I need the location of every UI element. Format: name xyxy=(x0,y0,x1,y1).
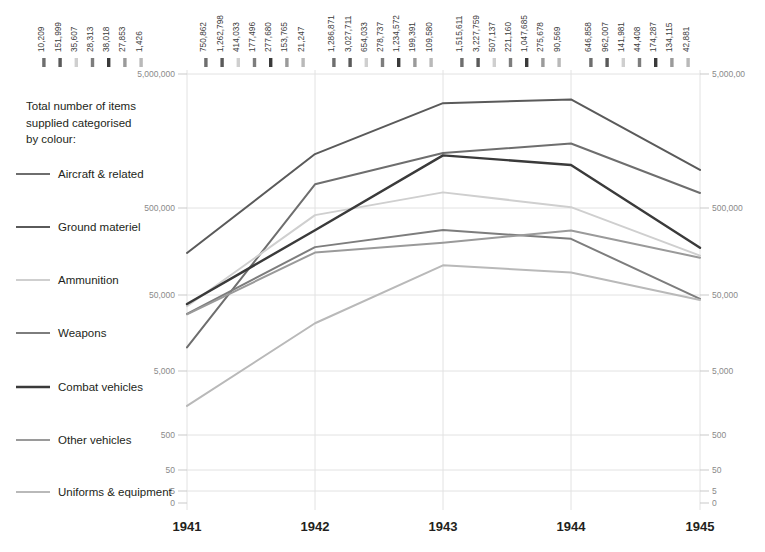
y-axis-tick-label-right: 5,000 xyxy=(712,366,734,376)
value-label: 646,858 xyxy=(583,22,593,52)
value-label: 1,234,572 xyxy=(391,15,401,52)
x-axis-year-labels: 19411942194319441945 xyxy=(173,519,715,534)
legend-title-line: Total number of items xyxy=(26,100,136,112)
line-chart: 10,209151,99935,60728,31338,01827,8531,4… xyxy=(0,0,765,552)
value-label: 278,737 xyxy=(375,22,385,52)
value-swatch xyxy=(654,58,657,67)
value-swatch xyxy=(541,58,544,67)
value-swatch xyxy=(348,58,351,67)
gridlines xyxy=(187,70,700,510)
value-label: 44,408 xyxy=(632,26,642,52)
y-axis-tick-label-left: 50,000 xyxy=(149,290,175,300)
value-label: 750,862 xyxy=(198,22,208,52)
value-label: 38,018 xyxy=(101,26,111,52)
value-swatch xyxy=(460,58,463,67)
value-label: 174,287 xyxy=(648,22,658,52)
value-label: 3,027,711 xyxy=(343,15,353,52)
value-label: 10,209 xyxy=(36,26,46,52)
value-label: 90,569 xyxy=(552,26,562,52)
value-swatch xyxy=(509,58,512,67)
value-swatch xyxy=(332,58,335,67)
value-label: 134,115 xyxy=(664,22,674,52)
y-axis-tick-label-right: 0 xyxy=(712,498,717,508)
value-swatch xyxy=(413,58,416,67)
year-label-1944: 1944 xyxy=(557,519,587,534)
value-swatch xyxy=(622,58,625,67)
legend-label-ground-materiel: Ground materiel xyxy=(58,221,140,233)
legend-title-line: by colour: xyxy=(26,133,76,145)
legend-label-aircraft-related: Aircraft & related xyxy=(58,168,144,180)
value-label: 962,007 xyxy=(600,22,610,52)
value-swatch xyxy=(381,58,384,67)
value-swatch xyxy=(638,58,641,67)
legend-label-other-vehicles: Other vehicles xyxy=(58,434,132,446)
value-label: 1,047,685 xyxy=(519,15,529,52)
value-swatch xyxy=(107,58,110,67)
top-value-labels: 10,209151,99935,60728,31338,01827,8531,4… xyxy=(36,15,690,67)
value-label: 42,881 xyxy=(681,26,691,52)
value-swatch xyxy=(58,58,61,67)
value-label: 1,262,798 xyxy=(215,15,225,52)
value-swatch xyxy=(365,58,368,67)
value-label: 35,607 xyxy=(69,26,79,52)
left-axis-labels: 5,000,000500,00050,0005,0005005050 xyxy=(137,69,187,508)
value-swatch xyxy=(429,58,432,67)
y-axis-tick-label-left: 0 xyxy=(170,498,175,508)
y-axis-tick-label-left: 50 xyxy=(166,465,176,475)
value-swatch xyxy=(285,58,288,67)
value-label: 3,227,759 xyxy=(471,15,481,52)
y-axis-tick-label-right: 50 xyxy=(712,465,722,475)
value-swatch xyxy=(476,58,479,67)
value-swatch xyxy=(237,58,240,67)
y-axis-tick-label-right: 5,000,00 xyxy=(712,69,745,79)
value-label: 151,999 xyxy=(53,22,63,52)
value-swatch xyxy=(589,58,592,67)
value-label: 27,853 xyxy=(117,26,127,52)
value-label: 109,580 xyxy=(424,22,434,52)
year-label-1941: 1941 xyxy=(173,519,202,534)
value-swatch xyxy=(557,58,560,67)
value-label: 199,391 xyxy=(407,22,417,52)
year-label-1943: 1943 xyxy=(429,519,458,534)
value-label: 1,515,611 xyxy=(454,15,464,52)
value-swatch xyxy=(493,58,496,67)
chart-canvas: 10,209151,99935,60728,31338,01827,8531,4… xyxy=(0,0,765,552)
value-swatch xyxy=(301,58,304,67)
legend-title-line: supplied categorised xyxy=(26,117,132,129)
y-axis-tick-label-left: 500,000 xyxy=(144,203,175,213)
value-label: 21,247 xyxy=(296,26,306,52)
value-swatch xyxy=(269,58,272,67)
value-swatch xyxy=(670,58,673,67)
value-label: 177,496 xyxy=(247,22,257,52)
value-label: 275,678 xyxy=(535,22,545,52)
y-axis-tick-label-left: 5,000,000 xyxy=(137,69,175,79)
value-swatch xyxy=(139,58,142,67)
value-label: 1,286,871 xyxy=(326,15,336,52)
value-swatch xyxy=(397,58,400,67)
right-axis-labels: 5,000,00500,00050,0005,0005005050 xyxy=(700,69,745,508)
legend-label-weapons: Weapons xyxy=(58,327,107,339)
legend-label-ammunition: Ammunition xyxy=(58,274,119,286)
value-label: 277,680 xyxy=(263,22,273,52)
value-label: 507,137 xyxy=(487,22,497,52)
value-label: 1,426 xyxy=(134,31,144,52)
value-swatch xyxy=(605,58,608,67)
y-axis-tick-label-right: 50,000 xyxy=(712,290,738,300)
value-swatch xyxy=(525,58,528,67)
value-swatch xyxy=(220,58,223,67)
year-label-1945: 1945 xyxy=(686,519,715,534)
value-swatch xyxy=(75,58,78,67)
value-swatch xyxy=(686,58,689,67)
value-label: 414,033 xyxy=(231,22,241,52)
value-swatch xyxy=(253,58,256,67)
y-axis-tick-label-left: 500 xyxy=(161,430,175,440)
value-label: 153,765 xyxy=(279,22,289,52)
year-label-1942: 1942 xyxy=(301,519,330,534)
y-axis-tick-label-right: 500 xyxy=(712,430,726,440)
legend-label-uniforms-equipment: Uniforms & equipment xyxy=(58,486,173,498)
value-label: 28,313 xyxy=(85,26,95,52)
y-axis-tick-label-left: 5,000 xyxy=(154,366,176,376)
value-swatch xyxy=(91,58,94,67)
legend-label-combat-vehicles: Combat vehicles xyxy=(58,381,143,393)
value-label: 654,033 xyxy=(359,22,369,52)
